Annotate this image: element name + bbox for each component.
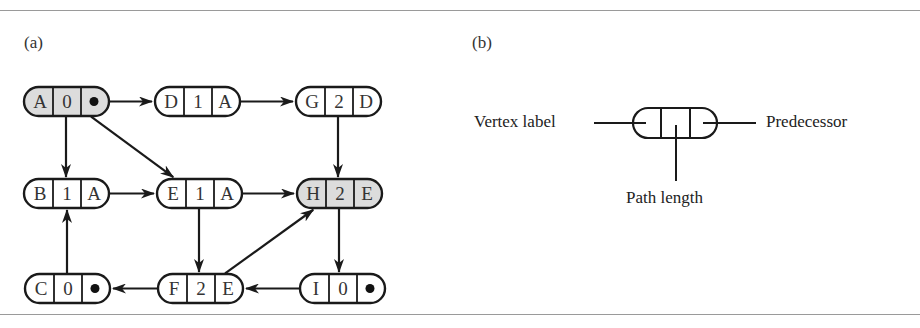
nodes-layer: A0D1AG2DB1AE1AH2EC0F2EI0 [24,87,385,303]
graph-node-i: I0 [300,274,385,303]
panel-b-label: (b) [472,33,492,53]
node-predecessor: E [361,183,373,204]
graph-node-a: A0 [24,87,109,116]
node-path-length: 1 [62,183,72,204]
node-vertex-label: I [313,278,319,299]
legend-node-pill [633,108,717,138]
nil-predecessor-dot-icon [91,284,100,293]
graph-node-f: F2E [158,274,243,303]
node-vertex-label: D [164,91,178,112]
node-path-length: 1 [195,183,205,204]
node-path-length: 2 [334,91,344,112]
legend-predecessor: Predecessor [766,112,847,132]
node-predecessor: A [220,183,234,204]
node-path-length: 0 [63,278,73,299]
node-predecessor: D [359,91,373,112]
graph-node-d: D1A [155,87,240,116]
edge-a-e [91,117,173,178]
node-predecessor: E [222,278,234,299]
node-vertex-label: E [167,183,179,204]
node-path-length: 2 [196,278,206,299]
graph-node-g: G2D [296,87,381,116]
node-predecessor: A [218,91,232,112]
graph-node-b: B1A [24,179,109,208]
node-vertex-label: B [34,183,47,204]
legend-path-length: Path length [626,188,703,208]
node-vertex-label: H [306,183,320,204]
node-vertex-label: C [35,278,48,299]
node-predecessor: A [87,183,101,204]
node-vertex-label: G [305,91,319,112]
edge-f-h [225,210,313,274]
nil-predecessor-dot-icon [366,284,375,293]
graph-node-e: E1A [157,179,242,208]
node-vertex-label: A [33,91,47,112]
graph-diagram: A0D1AG2DB1AE1AH2EC0F2EI0 [0,0,460,328]
graph-node-h: H2E [297,179,382,208]
graph-node-c: C0 [25,274,110,303]
node-path-length: 2 [335,183,345,204]
node-vertex-label: F [169,278,180,299]
node-path-length: 0 [62,91,72,112]
node-path-length: 1 [193,91,203,112]
legend-vertex-label: Vertex label [474,112,556,132]
nil-predecessor-dot-icon [90,97,99,106]
node-path-length: 0 [338,278,348,299]
